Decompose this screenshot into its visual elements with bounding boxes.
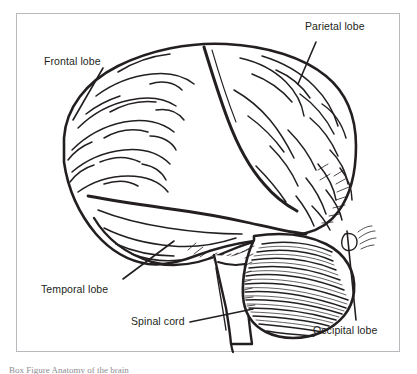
figure-caption: Box Figure Anatomy of the brain (9, 365, 129, 374)
label-temporal-lobe: Temporal lobe (41, 283, 108, 295)
label-parietal-lobe: Parietal lobe (305, 20, 365, 32)
label-occipital-lobe: Occipital lobe (313, 324, 377, 336)
label-frontal-lobe: Frontal lobe (44, 55, 101, 67)
brain-outline-group (64, 44, 376, 352)
label-spinal-cord: Spinal cord (131, 315, 185, 327)
vermis-hatching (358, 226, 376, 249)
cerebrum-outline (64, 44, 356, 265)
